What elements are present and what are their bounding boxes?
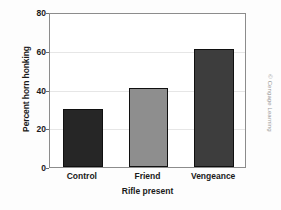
bar-friend [129, 88, 168, 167]
bar-vengeance [194, 49, 233, 167]
x-tick-label: Friend [115, 171, 181, 181]
y-tick-mark [46, 168, 49, 169]
y-tick-label: 20 [24, 124, 46, 134]
bar-series [50, 14, 245, 167]
bar-control [63, 109, 102, 167]
y-tick-label: 60 [24, 47, 46, 57]
attribution-text: © Cengage Learning [267, 48, 273, 158]
y-axis-tick-labels: 020406080 [22, 0, 46, 210]
plot-area [49, 13, 246, 168]
chart-figure: Percent horn honking 020406080 ControlFr… [0, 0, 281, 210]
x-tick-label: Vengeance [180, 171, 246, 181]
y-tick-label: 80 [24, 8, 46, 18]
y-tick-label: 40 [24, 86, 46, 96]
x-axis-title: Rifle present [49, 186, 246, 196]
y-tick-label: 0 [24, 163, 46, 173]
x-tick-label: Control [49, 171, 115, 181]
